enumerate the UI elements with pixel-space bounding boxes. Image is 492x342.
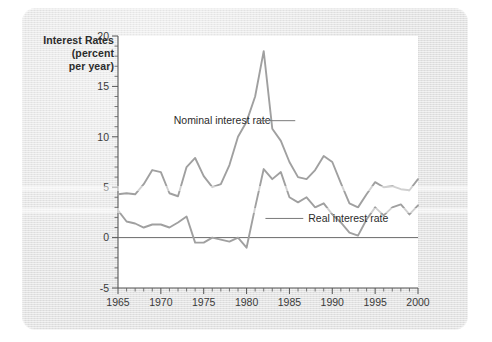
y-tick-label-20: 20 bbox=[97, 30, 109, 42]
x-tick-label-1980: 1980 bbox=[235, 296, 259, 308]
x-tick-label-1995: 1995 bbox=[363, 296, 387, 308]
x-tick-label-1985: 1985 bbox=[278, 296, 302, 308]
x-tick-label-2000: 2000 bbox=[406, 296, 430, 308]
axes-group bbox=[118, 36, 418, 288]
x-tick-label-1965: 1965 bbox=[106, 296, 130, 308]
line-chart: -505101520 19651970197519801985199019952… bbox=[0, 0, 492, 342]
y-tick-label-0: 0 bbox=[103, 231, 109, 243]
x-tick-label-1970: 1970 bbox=[149, 296, 173, 308]
annotation-nominal-label: Nominal interest rate bbox=[174, 114, 271, 126]
y-tick-group: -505101520 bbox=[97, 30, 118, 294]
annotation-real-label: Real interest rate bbox=[308, 212, 388, 224]
chart-screenshot: Interest Rates (percent per year) -50510… bbox=[0, 0, 492, 342]
series-line-nominal bbox=[118, 51, 418, 207]
series-line-real bbox=[118, 169, 418, 248]
y-tick-label--5: -5 bbox=[100, 282, 109, 294]
y-tick-label-15: 15 bbox=[97, 80, 109, 92]
x-tick-group: 19651970197519801985199019952000 bbox=[106, 288, 430, 308]
annotation-group: Nominal interest rateReal interest rate bbox=[174, 114, 389, 224]
x-tick-label-1990: 1990 bbox=[321, 296, 345, 308]
y-tick-label-5: 5 bbox=[103, 181, 109, 193]
x-tick-label-1975: 1975 bbox=[192, 296, 216, 308]
y-tick-label-10: 10 bbox=[97, 131, 109, 143]
